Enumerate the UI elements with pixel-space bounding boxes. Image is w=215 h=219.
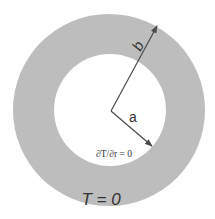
annulus-region	[13, 14, 205, 206]
inner-boundary-condition-label: ∂T/∂r = 0	[96, 149, 132, 159]
outer-boundary-condition-label: T = 0	[81, 190, 121, 209]
annulus-diagram: b a ∂T/∂r = 0 T = 0	[0, 0, 215, 219]
inner-radius-label: a	[129, 109, 137, 125]
